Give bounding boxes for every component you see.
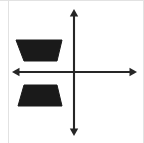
y-axis-bottom-arrowhead (70, 129, 78, 137)
x-axis-left-arrowhead (12, 68, 20, 76)
coordinate-plane-svg (0, 0, 144, 143)
y-axis-top-arrowhead (70, 9, 78, 17)
x-axis-right-arrowhead (130, 68, 138, 76)
lower-trapezoid-shape (18, 85, 62, 106)
upper-trapezoid-shape (16, 40, 62, 61)
coordinate-plane-figure (0, 0, 144, 143)
